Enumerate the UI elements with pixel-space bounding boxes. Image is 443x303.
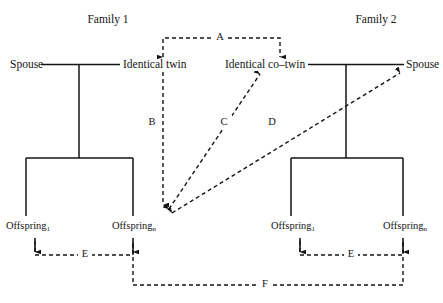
diagram-canvas — [0, 0, 443, 303]
family-1-offspring-first-label: Offspring1 — [6, 221, 50, 232]
path-f-label: F — [262, 279, 268, 290]
pedigree-diagram: Family 1 Family 2 Spouse Identical twin … — [0, 0, 443, 303]
family-2-offspring-first-label: Offspring1 — [271, 221, 315, 232]
path-e-family-1-label: E — [82, 249, 88, 260]
offspring-index: 1 — [312, 225, 316, 233]
offspring-word: Offspring — [271, 220, 312, 231]
offspring-word: Offspring — [112, 220, 153, 231]
family-2-spouse-label: Spouse — [406, 59, 439, 71]
family-2-title: Family 2 — [355, 14, 396, 26]
family-2-pedigree-lines — [285, 65, 404, 217]
path-b-label: B — [148, 117, 155, 128]
path-a-label: A — [216, 32, 224, 43]
family-1-offspring-last-label: Offspringn — [112, 221, 156, 232]
offspring-index: n — [153, 225, 157, 233]
offspring-index: 1 — [47, 225, 51, 233]
path-d-label: D — [268, 117, 276, 128]
path-c-label: C — [220, 117, 227, 128]
path-d-arrow — [172, 73, 400, 213]
family-1-twin-label: Identical twin — [120, 59, 190, 71]
family-1-spouse-label: Spouse — [10, 59, 43, 71]
family-2-offspring-last-label: Offspringn — [383, 221, 427, 232]
path-c-arrow — [169, 74, 260, 209]
offspring-index: n — [424, 225, 428, 233]
offspring-word: Offspring — [6, 220, 47, 231]
offspring-word: Offspring — [383, 220, 424, 231]
family-2-twin-label: Identical co–twin — [222, 59, 308, 71]
path-e-family-2-label: E — [348, 249, 354, 260]
family-1-title: Family 1 — [87, 14, 128, 26]
family-1-pedigree-lines — [26, 65, 163, 217]
